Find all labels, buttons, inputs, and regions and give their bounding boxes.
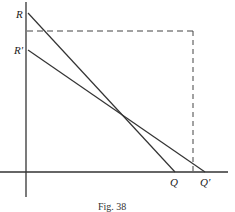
figure-caption: Fig. 38 xyxy=(98,201,126,212)
line-r-prime-q-prime xyxy=(28,50,205,172)
line-r-q xyxy=(28,13,175,172)
label-r-prime: R′ xyxy=(13,44,24,56)
label-q-prime: Q′ xyxy=(200,176,211,188)
label-r: R xyxy=(15,8,23,20)
figure-canvas: R R′ Q Q′ Fig. 38 xyxy=(0,0,235,212)
label-q: Q xyxy=(170,176,178,188)
